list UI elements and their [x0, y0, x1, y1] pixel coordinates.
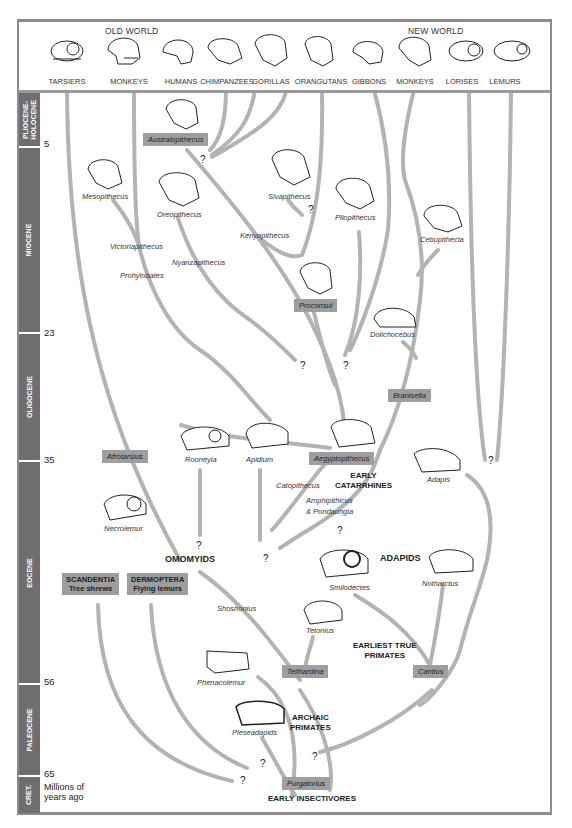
fossil-proconsul: Proconsul — [294, 299, 337, 312]
loris-skull-icon — [446, 37, 488, 67]
epoch-cretaceous: CRET. — [19, 777, 40, 813]
fossil-victoriapithecus: Victoriapithecus — [110, 242, 163, 251]
group-dermoptera: DERMOPTERAFlying lemurs — [127, 573, 188, 595]
fossil-prohylobates: Prohylobates — [120, 271, 164, 280]
fossil-smilodectes: Smilodectes — [329, 583, 370, 592]
fossil-apidium: Apidium — [246, 455, 273, 464]
axis-unit-label: Millions ofyears ago — [44, 782, 84, 802]
necrolemur-skull-icon — [100, 490, 150, 524]
epoch-paleocene: PALEOCENE — [19, 685, 40, 775]
tick-56: 56 — [44, 676, 55, 687]
dolichocebus-skull-icon — [370, 303, 420, 331]
new-world-monkey-skull-icon — [395, 32, 435, 70]
epoch-pliocene-holocene: PLIOCENE- HOLOCENE — [19, 93, 40, 146]
taxon-new-world-monkeys: MONKEYS — [396, 77, 434, 86]
group-omomyids: OMOMYIDS — [165, 554, 215, 564]
group-adapids: ADAPIDS — [380, 553, 421, 563]
taxon-old-world-monkeys: MONKEYS — [110, 77, 148, 86]
unknown-marker: ? — [200, 154, 206, 165]
tick-35: 35 — [44, 454, 55, 465]
tarsier-skull-icon — [47, 37, 87, 67]
tetonius-skull-icon — [300, 596, 346, 628]
fossil-purgatorius: Purgatorius — [282, 777, 330, 790]
fossil-pondaungia: & Pondaungia — [306, 507, 353, 516]
fossil-dolichocebus: Dolichocebus — [370, 330, 415, 339]
fossil-adapis: Adapis — [427, 475, 450, 484]
chimpanzee-skull-icon — [204, 32, 244, 68]
unknown-marker: ? — [300, 360, 306, 371]
fossil-notharctus: Notharctus — [422, 579, 458, 588]
orangutan-skull-icon — [299, 32, 339, 70]
fossil-nyanzapithecus: Nyanzapithecus — [172, 258, 225, 267]
fossil-oreopithecus: Oreopithecus — [157, 210, 202, 219]
taxon-orangutans: ORANGUTANS — [295, 77, 347, 86]
fossil-aegyptopithecus: Aegyptopithecus — [309, 452, 374, 465]
notharctus-skull-icon — [425, 545, 477, 579]
pleseadapids-skull-icon — [232, 697, 288, 729]
sivapithecus-skull-icon — [268, 145, 316, 191]
group-early-insectivores: EARLY INSECTIVORES — [268, 794, 356, 804]
aegyptopithecus-skull-icon — [327, 415, 379, 451]
unknown-marker: ? — [343, 360, 349, 371]
epoch-miocene: MIOCENE — [19, 148, 40, 332]
fossil-kenyapithecus: Kenyapithecus — [240, 231, 289, 240]
group-scandentia: SCANDENTIATree shrews — [62, 573, 119, 595]
fossil-catopithecus: Catopithecus — [276, 481, 320, 490]
fossil-australopithecus: Australopithecus — [143, 133, 208, 146]
phenacolemur-skull-icon — [203, 647, 253, 677]
fossil-pleseadapids: Pleseadapids — [232, 728, 277, 737]
fossil-cebupithecia: Cebupithecia — [420, 235, 464, 244]
unknown-marker: ? — [312, 751, 318, 762]
group-early-catarrhines: EARLYCATARRHINES — [335, 471, 392, 491]
fossil-amphipithicus: Amphipithicus — [306, 496, 353, 505]
taxon-lemurs: LEMURS — [489, 77, 520, 86]
pliopithecus-skull-icon — [332, 173, 380, 213]
taxon-lorises: LORISES — [446, 77, 479, 86]
old-world-monkey-skull-icon — [104, 32, 144, 70]
living-primates-header: OLD WORLD NEW WORLD TARSIERS MONKEYS HUM… — [19, 22, 550, 93]
unknown-marker: ? — [240, 775, 246, 786]
australopithecus-skull-icon — [162, 95, 202, 133]
proconsul-skull-icon — [296, 258, 336, 298]
taxon-chimpanzees: CHIMPANZEES — [200, 77, 254, 86]
unknown-marker: ? — [337, 525, 343, 536]
unknown-marker: ? — [263, 553, 269, 564]
taxon-tarsiers: TARSIERS — [49, 77, 86, 86]
epoch-oligocene: OLIGOCENE — [19, 334, 40, 460]
taxon-gorillas: GORILLAS — [252, 77, 290, 86]
fossil-rooneyia: Rooneyia — [185, 455, 217, 464]
mesopithecus-skull-icon — [84, 155, 128, 193]
lemur-skull-icon — [492, 37, 536, 67]
oreopithecus-skull-icon — [155, 168, 205, 210]
smilodectes-skull-icon — [316, 545, 372, 583]
unknown-marker: ? — [260, 758, 266, 769]
geologic-time-axis: PLIOCENE- HOLOCENE MIOCENE OLIGOCENE EOC… — [19, 93, 40, 813]
fossil-mesopithecus: Mesopithecus — [82, 192, 128, 201]
adapis-skull-icon — [410, 444, 464, 476]
fossil-pliopithecus: Pliopithecus — [335, 213, 375, 222]
fossil-phenacolemur: Phenacolemur — [197, 678, 245, 687]
unknown-marker: ? — [488, 455, 494, 466]
cebupithecia-skull-icon — [420, 200, 468, 236]
fossil-sivapithecus: Sivapithecus — [268, 192, 311, 201]
gorilla-skull-icon — [251, 30, 291, 70]
fossil-branisella: Branisella — [388, 389, 431, 402]
apidium-skull-icon — [242, 418, 292, 454]
tick-5: 5 — [44, 138, 49, 149]
fossil-shoshonius: Shoshonius — [217, 604, 256, 613]
taxon-gibbons: GIBBONS — [352, 77, 386, 86]
tick-65: 65 — [44, 768, 55, 779]
tick-23: 23 — [44, 327, 55, 338]
group-archaic-primates: ARCHAICPRIMATES — [290, 713, 331, 733]
epoch-eocene: EOCENE — [19, 462, 40, 683]
group-earliest-true-primates: EARLIEST TRUEPRIMATES — [353, 641, 417, 661]
fossil-afrotarsius: Afrotarsius — [102, 450, 148, 463]
human-skull-icon — [159, 34, 197, 68]
unknown-marker: ? — [308, 204, 314, 215]
rooneyia-skull-icon — [177, 422, 233, 454]
gibbon-skull-icon — [349, 36, 387, 68]
unknown-marker: ? — [196, 540, 202, 551]
taxon-humans: HUMANS — [165, 77, 198, 86]
fossil-teilhardina: Teilhardina — [282, 665, 328, 678]
fossil-cantius: Cantius — [413, 665, 448, 678]
